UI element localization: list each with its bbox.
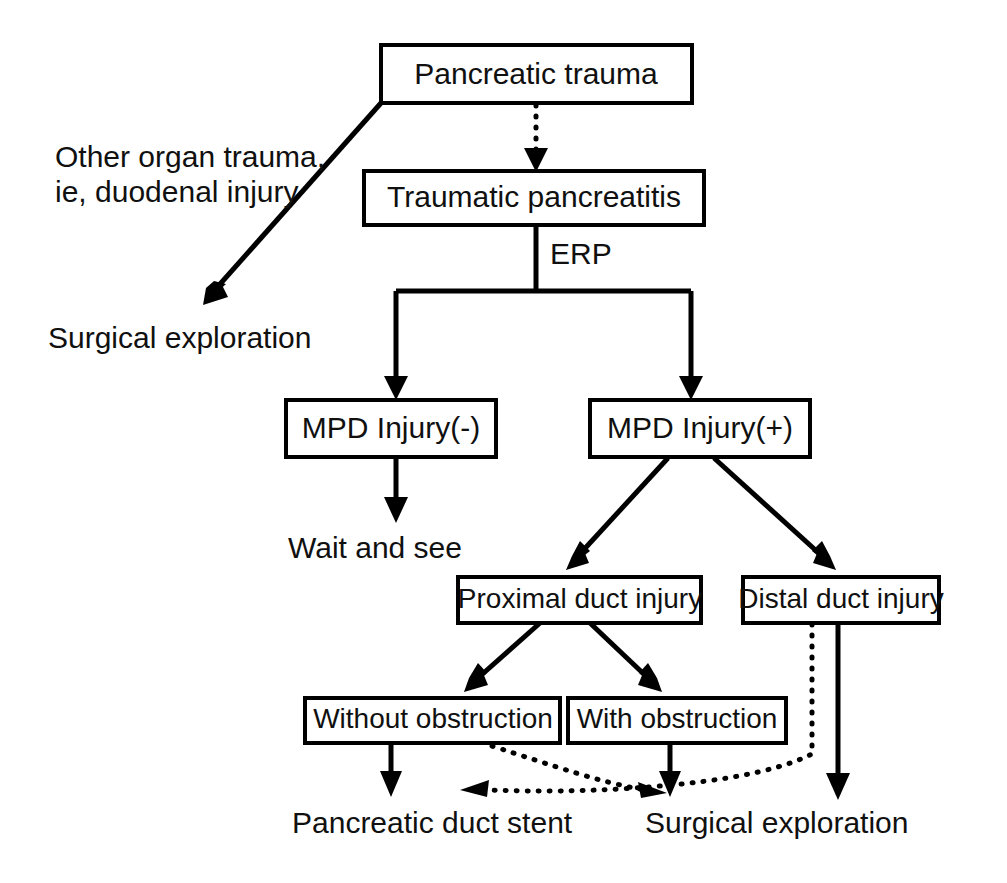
flowchart-svg: Pancreatic trauma Traumatic pancreatitis… [0, 0, 1007, 883]
label-wait-and-see: Wait and see [288, 531, 462, 564]
edge-mpd-negative-to-wait [384, 458, 408, 523]
node-label-traumatic-pancreatitis: Traumatic pancreatitis [387, 180, 681, 213]
label-surgical-exploration-bottom: Surgical exploration [645, 806, 908, 839]
edge-mpd-positive-to-distal [714, 458, 836, 570]
edge-split-to-mpd-positive [679, 291, 703, 400]
node-label-proximal-duct-injury: Proximal duct injury [458, 583, 702, 614]
node-label-with-obstruction: With obstruction [577, 703, 778, 734]
node-label-without-obstruction: Without obstruction [313, 703, 553, 734]
edge-proximal-to-without [464, 623, 540, 692]
edge-proximal-to-with [590, 623, 662, 692]
label-other-organ-trauma-line1: Other organ trauma, [55, 140, 325, 173]
label-other-organ-trauma-line2: ie, duodenal injury [55, 175, 299, 208]
node-label-distal-duct-injury: Distal duct injury [738, 583, 943, 614]
flowchart-canvas: Pancreatic trauma Traumatic pancreatitis… [0, 0, 1007, 883]
label-erp: ERP [550, 237, 612, 270]
edge-without-to-stent [380, 743, 402, 797]
label-pancreatic-duct-stent: Pancreatic duct stent [292, 806, 573, 839]
node-label-pancreatic-trauma: Pancreatic trauma [414, 57, 658, 90]
edge-with-to-surgical [659, 743, 681, 797]
edge-mpd-positive-to-proximal [566, 458, 668, 570]
edge-split-to-mpd-negative [384, 291, 408, 400]
edge-pancreatitis-split [396, 225, 691, 291]
label-surgical-exploration-top: Surgical exploration [48, 321, 311, 354]
edge-distal-to-surgical [826, 623, 850, 800]
edge-trauma-to-pancreatitis [524, 105, 548, 172]
node-label-mpd-injury-positive: MPD Injury(+) [607, 411, 793, 444]
node-label-mpd-injury-negative: MPD Injury(-) [302, 411, 480, 444]
